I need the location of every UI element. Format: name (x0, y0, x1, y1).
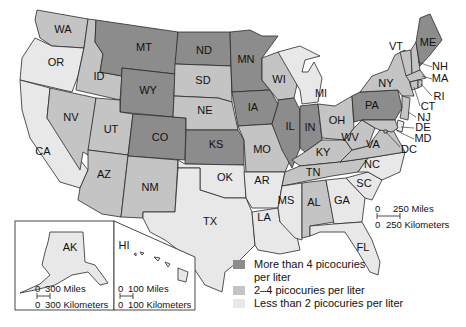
svg-text:0: 0 (35, 283, 40, 294)
legend-swatch-low (233, 299, 245, 308)
svg-text:250 Miles: 250 Miles (393, 203, 434, 214)
svg-text:NC: NC (364, 158, 380, 170)
legend-label-medium: 2–4 picocuries per liter (254, 284, 365, 297)
svg-text:NE: NE (197, 104, 212, 116)
legend-item-high: More than 4 picocuries per liter (233, 258, 403, 284)
svg-text:NH: NH (432, 60, 448, 72)
svg-text:LA: LA (257, 211, 271, 223)
legend-item-low: Less than 2 picocuries per liter (233, 297, 403, 310)
svg-text:FL: FL (357, 241, 370, 253)
svg-text:MI: MI (315, 87, 327, 99)
svg-text:ID: ID (94, 70, 105, 82)
svg-text:0: 0 (35, 299, 40, 310)
legend-swatch-medium (233, 286, 245, 295)
inset-alaska: AK 0 300 Miles 0 300 Kilometers (15, 221, 114, 310)
svg-text:WI: WI (272, 73, 285, 85)
svg-text:SC: SC (356, 177, 371, 189)
svg-text:AK: AK (63, 241, 78, 253)
svg-text:ME: ME (420, 36, 437, 48)
svg-text:TX: TX (203, 215, 218, 227)
svg-text:GA: GA (334, 194, 351, 206)
svg-text:MS: MS (278, 194, 295, 206)
svg-text:WV: WV (341, 131, 359, 143)
svg-text:250 Kilometers: 250 Kilometers (386, 219, 450, 230)
svg-text:IA: IA (248, 101, 259, 113)
svg-text:MO: MO (253, 143, 271, 155)
svg-text:AL: AL (307, 196, 320, 208)
svg-text:CA: CA (35, 145, 51, 157)
svg-text:OK: OK (217, 171, 234, 183)
svg-text:DC: DC (401, 143, 417, 155)
svg-text:TN: TN (306, 166, 321, 178)
svg-text:IL: IL (285, 120, 294, 132)
svg-text:MA: MA (432, 72, 449, 84)
svg-text:OR: OR (48, 56, 65, 68)
svg-text:OH: OH (329, 114, 346, 126)
svg-text:MT: MT (136, 41, 152, 53)
svg-text:NY: NY (378, 77, 394, 89)
svg-text:KY: KY (316, 146, 331, 158)
legend-label-high-cont: per liter (254, 271, 291, 283)
legend-label-high: More than 4 picocuries (254, 258, 365, 270)
svg-text:SD: SD (195, 74, 210, 86)
svg-text:AR: AR (254, 174, 269, 186)
svg-text:WY: WY (139, 84, 157, 96)
svg-text:MD: MD (414, 132, 431, 144)
legend: More than 4 picocuries per liter 2–4 pic… (233, 258, 403, 310)
svg-text:VT: VT (389, 40, 403, 52)
svg-text:0: 0 (375, 203, 380, 214)
svg-text:300 Miles: 300 Miles (45, 283, 86, 294)
svg-text:UT: UT (104, 123, 119, 135)
svg-text:100 Miles: 100 Miles (128, 283, 169, 294)
svg-text:CO: CO (152, 131, 169, 143)
svg-text:IN: IN (305, 121, 316, 133)
svg-text:KS: KS (209, 138, 224, 150)
svg-text:MN: MN (237, 53, 254, 65)
svg-text:ND: ND (196, 44, 212, 56)
svg-text:WA: WA (54, 23, 72, 35)
svg-text:VA: VA (366, 138, 381, 150)
legend-swatch-high (233, 260, 245, 269)
svg-text:NV: NV (63, 111, 79, 123)
svg-text:PA: PA (365, 99, 380, 111)
legend-item-medium: 2–4 picocuries per liter (233, 284, 403, 297)
svg-text:100 Kilometers: 100 Kilometers (128, 299, 192, 310)
svg-text:AZ: AZ (97, 168, 111, 180)
svg-text:300 Kilometers: 300 Kilometers (45, 299, 109, 310)
svg-text:HI: HI (119, 239, 130, 251)
svg-text:0: 0 (375, 219, 380, 230)
legend-label-low: Less than 2 picocuries per liter (254, 297, 403, 310)
svg-text:NM: NM (141, 181, 158, 193)
svg-text:0: 0 (118, 283, 123, 294)
svg-text:0: 0 (118, 299, 123, 310)
